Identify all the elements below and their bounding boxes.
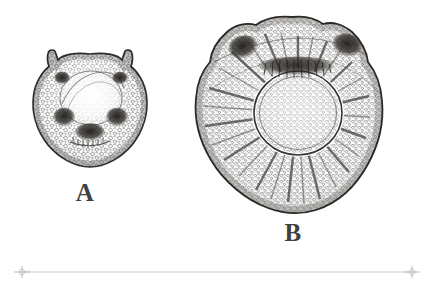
- figure-b: [190, 10, 390, 220]
- figure-a-left-lobe: [53, 108, 75, 127]
- figure-a-basal-mass: [75, 123, 105, 141]
- scale-bar-right-marker: [404, 266, 420, 278]
- scale-bar-left-marker: [14, 266, 30, 278]
- scale-bar: [14, 266, 420, 278]
- figure-canvas: [0, 0, 434, 291]
- figure-a-right-ocellus: [112, 72, 128, 85]
- figure-a: [28, 44, 156, 174]
- figure-a-body: [28, 44, 156, 174]
- engraving-plate: A B: [0, 0, 434, 291]
- figure-a-label: A: [63, 180, 107, 205]
- figure-a-left-ocellus: [54, 72, 70, 85]
- figure-b-label: B: [271, 220, 315, 245]
- figure-a-right-lobe: [106, 108, 128, 127]
